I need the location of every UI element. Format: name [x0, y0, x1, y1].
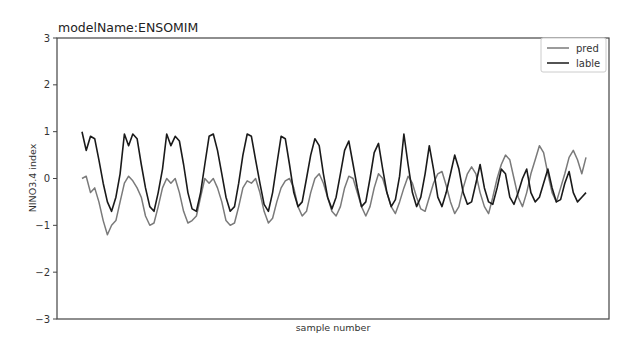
legend: pred lable [541, 38, 606, 72]
y-tick-label: −2 [35, 267, 50, 278]
y-tick-label: 3 [44, 33, 50, 44]
y-tick-label: −1 [35, 220, 50, 231]
y-tick-label: 0 [44, 173, 50, 184]
line-chart: modelName:ENSOMIM 3210−1−2−3 NINO3.4 ind… [0, 0, 623, 352]
y-tick-label: 2 [44, 79, 50, 90]
plot-area [57, 38, 609, 319]
y-axis-label: NINO3.4 index [27, 143, 38, 212]
y-axis-ticks: 3210−1−2−3 [35, 33, 57, 325]
axes-frame [57, 38, 609, 319]
y-tick-label: 1 [44, 126, 50, 137]
y-tick-label: −3 [35, 314, 50, 325]
chart-title: modelName:ENSOMIM [58, 20, 198, 35]
legend-label-pred: pred [576, 43, 599, 54]
x-axis-label: sample number [296, 322, 371, 333]
legend-label-lable: lable [576, 58, 600, 69]
